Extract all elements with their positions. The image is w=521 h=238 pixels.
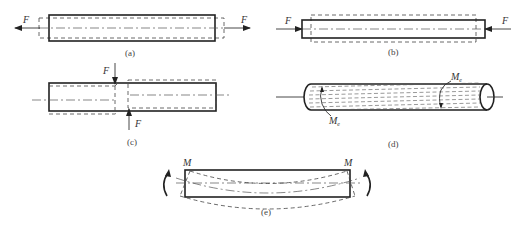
deformation-diagram: F F (a) F F (b) F F (c) — [0, 0, 521, 238]
force-label-left: F — [22, 14, 30, 25]
moment-arc-left — [321, 88, 331, 116]
force-label-right: F — [501, 15, 509, 26]
moment-label-left: Me — [328, 115, 340, 127]
moment-arrowhead-right — [363, 169, 369, 177]
caption-b: (b) — [388, 47, 399, 57]
force-label-top: F — [102, 65, 110, 76]
caption-e: (e) — [261, 207, 271, 217]
moment-arc-right — [366, 173, 370, 196]
force-label-left: F — [284, 15, 292, 26]
deformed-right — [128, 80, 216, 108]
twist-hatching — [309, 83, 480, 110]
rotated-section-right — [347, 171, 355, 196]
moment-arrowhead-left — [165, 169, 171, 177]
panel-b-compression: F F (b) — [276, 15, 511, 57]
force-label-bottom: F — [134, 118, 142, 129]
moment-arc-left — [164, 173, 168, 196]
moment-label-right: M — [343, 157, 353, 168]
moment-arrowhead-right — [439, 103, 443, 109]
panel-e-bending: M M (e) — [164, 157, 371, 217]
moment-label-right: Me — [450, 71, 462, 83]
panel-d-torsion: Me Me (d) — [276, 71, 503, 149]
panel-c-shear: F F (c) — [32, 63, 231, 147]
deformed-neutral — [176, 178, 360, 193]
force-label-right: F — [240, 14, 248, 25]
deformed-left — [49, 84, 118, 114]
caption-d: (d) — [388, 139, 399, 149]
moment-label-left: M — [182, 157, 192, 168]
bar — [49, 83, 216, 111]
deformed-top — [190, 171, 347, 184]
panel-a-tension: F F (a) — [15, 14, 250, 58]
caption-a: (a) — [125, 48, 135, 58]
caption-c: (c) — [127, 137, 137, 147]
